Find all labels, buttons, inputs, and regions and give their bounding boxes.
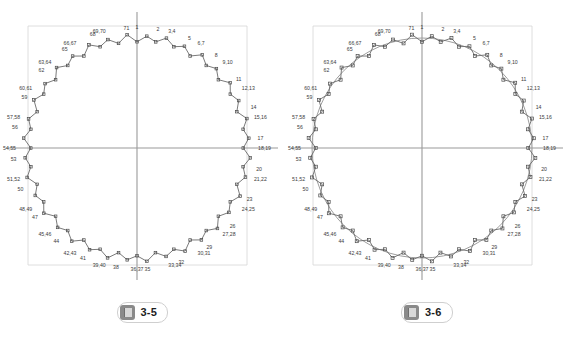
point-label: 48,49 (19, 206, 32, 212)
point-label: 51,52 (7, 176, 20, 182)
point-label: 54,55 (288, 145, 301, 151)
point-label: 3,4 (453, 28, 460, 34)
figures-container: 123,456,789,101112,131415,161718,192021,… (0, 0, 569, 288)
point-label: 65 (346, 46, 352, 52)
point-label: 71 (124, 25, 130, 31)
point-label: 60,61 (304, 85, 317, 91)
point-label: 41 (365, 255, 371, 261)
point-label: 47 (317, 214, 323, 220)
point-label: 23 (531, 196, 537, 202)
point-label: 71 (408, 25, 414, 31)
point-label: 39,40 (93, 262, 106, 268)
point-label: 12,13 (526, 85, 539, 91)
point-label: 57,58 (7, 114, 20, 120)
point-label: 9,10 (507, 59, 517, 65)
point-label: 2 (157, 26, 160, 32)
point-label: 39,40 (377, 262, 390, 268)
point-label: 20 (256, 166, 262, 172)
point-label: 17 (542, 135, 548, 141)
point-label: 14 (535, 104, 541, 110)
point-label: 59 (306, 94, 312, 100)
point-label: 36,37 (415, 266, 428, 272)
caption-cell-3-5: 3-5 (0, 288, 285, 337)
point-label: 26 (514, 223, 520, 229)
roundness-chart-3-5: 123,456,789,101112,131415,161718,192021,… (0, 0, 284, 288)
book-icon (120, 305, 135, 320)
point-label: 69,70 (93, 28, 106, 34)
point-label: 15,16 (538, 114, 551, 120)
point-label: 15,16 (254, 114, 267, 120)
caption-cell-3-6: 3-6 (285, 288, 569, 337)
point-label: 24,25 (526, 206, 539, 212)
point-label: 18,19 (543, 145, 556, 151)
point-label: 63,64 (38, 59, 51, 65)
point-label: 14 (251, 104, 257, 110)
point-label: 33,34 (453, 262, 466, 268)
point-label: 51,52 (292, 176, 305, 182)
captions-row: 3-5 3-6 (0, 288, 569, 337)
point-label: 30,31 (198, 250, 211, 256)
point-label: 59 (22, 94, 28, 100)
point-label: 62 (323, 67, 329, 73)
point-label: 9,10 (223, 59, 233, 65)
figure-caption-3-6[interactable]: 3-6 (401, 302, 453, 323)
book-icon (404, 305, 419, 320)
point-label: 53 (295, 156, 301, 162)
point-label: 44 (53, 238, 59, 244)
point-label: 33,34 (168, 262, 181, 268)
point-label: 38 (398, 264, 404, 270)
point-label: 6,7 (198, 40, 205, 46)
figure-3-6-plot: 123,456,789,101112,131415,161718,192021,… (285, 0, 569, 288)
point-label: 24,25 (242, 206, 255, 212)
figure-caption-3-5[interactable]: 3-5 (117, 302, 169, 323)
point-label: 17 (258, 135, 264, 141)
point-label: 12,13 (242, 85, 255, 91)
point-label: 11 (521, 76, 526, 82)
figure-caption-label: 3-5 (141, 307, 158, 318)
point-label: 5 (188, 35, 191, 41)
point-label: 44 (338, 238, 344, 244)
point-label: 21,22 (538, 176, 551, 182)
point-label: 56 (297, 124, 303, 130)
point-label: 26 (230, 223, 236, 229)
point-label: 1 (136, 24, 139, 30)
point-label: 20 (541, 166, 547, 172)
point-label: 2 (441, 26, 444, 32)
point-label: 62 (39, 67, 45, 73)
point-label: 54,55 (3, 145, 16, 151)
point-label: 6,7 (482, 40, 489, 46)
figure-caption-label: 3-6 (425, 307, 442, 318)
point-label: 45,46 (323, 231, 336, 237)
point-label: 60,61 (19, 85, 32, 91)
point-label: 36,37 (131, 266, 144, 272)
point-label: 47 (32, 214, 38, 220)
figure-3-5-plot: 123,456,789,101112,131415,161718,192021,… (0, 0, 285, 288)
point-label: 66,67 (64, 40, 77, 46)
point-label: 42,43 (348, 250, 361, 256)
point-label: 1 (420, 24, 423, 30)
point-label: 56 (12, 124, 18, 130)
point-label: 38 (113, 264, 119, 270)
point-label: 57,58 (292, 114, 305, 120)
crosshair-axes (291, 12, 563, 280)
point-label: 27,28 (507, 231, 520, 237)
point-label: 53 (11, 156, 17, 162)
point-label: 63,64 (323, 59, 336, 65)
point-label: 65 (62, 46, 68, 52)
point-label: 27,28 (223, 231, 236, 237)
point-label: 50 (18, 186, 24, 192)
point-label: 66,67 (348, 40, 361, 46)
point-label: 23 (247, 196, 253, 202)
point-label: 30,31 (482, 250, 495, 256)
point-label: 69,70 (377, 28, 390, 34)
point-label: 11 (236, 76, 241, 82)
point-label: 3,4 (168, 28, 175, 34)
point-label: 50 (302, 186, 308, 192)
crosshair-axes (6, 12, 278, 280)
point-label: 42,43 (64, 250, 77, 256)
point-label: 35 (429, 266, 435, 272)
point-label: 35 (145, 266, 151, 272)
point-label: 48,49 (304, 206, 317, 212)
point-label: 41 (80, 255, 86, 261)
point-label: 45,46 (38, 231, 51, 237)
